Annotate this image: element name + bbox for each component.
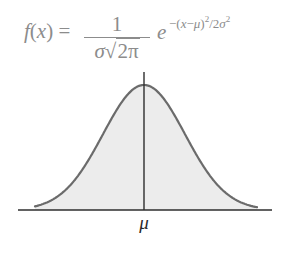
mean-label: μ bbox=[136, 212, 152, 234]
